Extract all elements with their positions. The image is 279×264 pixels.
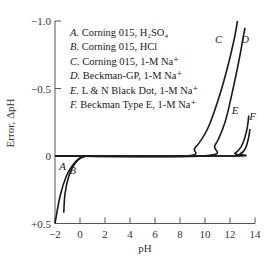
x-tick-label: 14 [250, 228, 262, 240]
legend-item-c: C. Corning 015, 1-M Na⁺ [70, 55, 198, 69]
legend-item-e: E. L & N Black Dot, 1-M Na⁺ [70, 84, 198, 98]
y-tick-label: −0.5 [31, 83, 51, 95]
legend: A. Corning 015, H₂SO₄ B. Corning 015, HC… [70, 26, 198, 112]
curve-b [64, 156, 93, 213]
x-tick-label: 0 [77, 228, 83, 240]
legend-item-d: D. Beckman-GP, 1-M Na⁺ [70, 69, 198, 83]
curve-label-f: F [248, 110, 256, 122]
curve-label-d: D [240, 33, 249, 45]
legend-item-f: F. Beckman Type E, 1-M Na⁺ [70, 98, 198, 112]
curve-label-e: E [231, 104, 239, 116]
legend-item-a: A. Corning 015, H₂SO₄ [70, 26, 198, 40]
curve-label-c: C [215, 33, 223, 45]
y-axis-title: Error, ΔpH [4, 99, 16, 148]
x-tick-label: 12 [225, 228, 236, 240]
y-tick-label: +0.5 [31, 218, 51, 230]
y-tick-label: 0 [46, 150, 52, 162]
x-axis-title: pH [138, 242, 152, 254]
y-tick-label: −1.0 [31, 15, 51, 27]
x-tick-label: 8 [177, 228, 183, 240]
x-tick-label: 4 [127, 228, 133, 240]
curve-label-b: B [69, 164, 76, 176]
legend-item-b: B. Corning 015, HCl [70, 40, 198, 54]
x-tick-label: 6 [152, 228, 158, 240]
x-tick-label: 10 [200, 228, 212, 240]
curve-label-a: A [58, 160, 66, 172]
x-tick-label: 2 [102, 228, 108, 240]
